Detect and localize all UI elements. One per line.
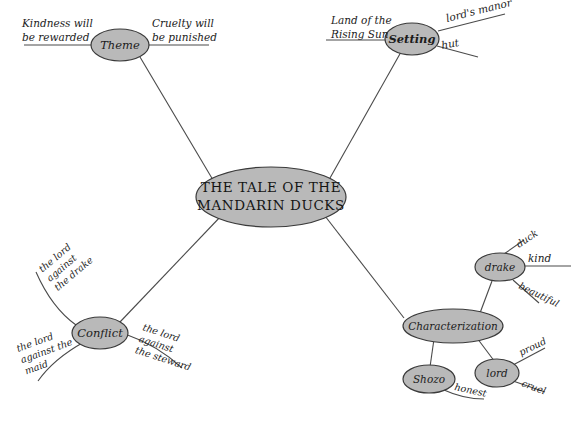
leaf-theme-kindness: Kindness will be rewarded — [21, 17, 93, 43]
central-node-label-line1: THE TALE OF THE — [201, 179, 341, 195]
leaf-setting-land-line1: Land of the — [330, 14, 392, 26]
central-node-label-line2: MANDARIN DUCKS — [197, 197, 345, 213]
node-conflict[interactable]: Conflict — [72, 317, 128, 349]
node-drake[interactable]: drake — [475, 253, 525, 281]
edge-characterization-shozo — [430, 339, 434, 367]
edge-characterization-lord — [477, 338, 495, 362]
leaf-lord-cruel: cruel — [520, 378, 547, 397]
leaf-setting-hut: hut — [440, 36, 460, 51]
drake-node-label: drake — [485, 261, 516, 273]
node-lord[interactable]: lord — [475, 359, 519, 387]
leaf-drake-duck: duck — [514, 227, 540, 249]
theme-node-label: Theme — [100, 38, 140, 52]
node-shozo[interactable]: Shozo — [403, 365, 455, 393]
shozo-node-label: Shozo — [413, 373, 445, 385]
conflict-node-label: Conflict — [77, 326, 123, 340]
leaf-conflict-drake: the lord against the drake — [37, 236, 96, 293]
leaf-setting-land-line2: Rising Sun — [330, 28, 389, 40]
node-central[interactable]: THE TALE OF THE MANDARIN DUCKS — [196, 167, 346, 227]
edge-center-theme — [140, 57, 213, 180]
edge-center-setting — [330, 52, 401, 178]
leaf-conflict-maid: the lord against the maid — [15, 325, 78, 377]
characterization-node-label: Characterization — [408, 320, 498, 332]
edge-characterization-drake — [480, 281, 492, 313]
lord-node-label: lord — [486, 367, 508, 379]
node-characterization[interactable]: Characterization — [403, 309, 503, 343]
edge-center-conflict — [120, 215, 222, 322]
leaf-theme-kindness-line2: be rewarded — [22, 31, 90, 43]
leaf-drake-kind: kind — [528, 252, 551, 264]
edge-center-characterization — [325, 216, 404, 318]
leaf-theme-cruelty-line2: be punished — [152, 31, 217, 43]
mind-map-canvas: THE TALE OF THE MANDARIN DUCKS Theme Set… — [0, 0, 573, 421]
leaf-drake-beautiful: beautiful — [517, 280, 561, 309]
mind-map-svg: THE TALE OF THE MANDARIN DUCKS Theme Set… — [0, 0, 573, 421]
leaf-conflict-steward: the lord against the steward — [134, 321, 200, 372]
node-setting[interactable]: Setting — [385, 23, 439, 55]
node-theme[interactable]: Theme — [91, 29, 149, 61]
leaf-setting-land: Land of the Rising Sun — [330, 14, 392, 40]
leaf-theme-cruelty: Cruelty will be punished — [152, 17, 217, 43]
setting-node-label: Setting — [388, 32, 435, 46]
leaf-theme-cruelty-line1: Cruelty will — [152, 17, 214, 29]
leaf-theme-kindness-line1: Kindness will — [21, 17, 93, 29]
